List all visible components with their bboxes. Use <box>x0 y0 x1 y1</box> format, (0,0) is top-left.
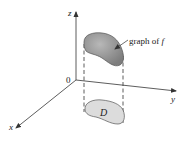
annotation-function-var: f <box>162 36 166 46</box>
annotation-text: graph of <box>129 36 162 46</box>
z-axis-label: z <box>67 8 72 18</box>
y-axis-label: y <box>170 94 175 104</box>
surface-graph-of-f <box>84 33 124 66</box>
origin-label: 0 <box>66 75 71 85</box>
graph-of-f-diagram: z y x 0 graph of f D <box>0 0 187 141</box>
x-axis <box>16 80 76 128</box>
y-axis <box>76 80 176 91</box>
x-axis-label: x <box>8 122 13 132</box>
region-d-label: D <box>99 107 108 118</box>
surface-annotation: graph of f <box>129 36 166 46</box>
